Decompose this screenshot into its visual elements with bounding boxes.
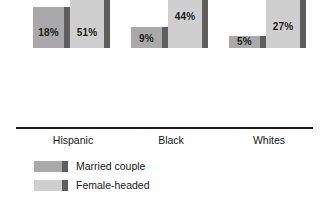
legend-swatch-icon	[34, 180, 68, 191]
category-label-whites: Whites	[229, 134, 309, 146]
category-label-hispanic: Hispanic	[33, 134, 113, 146]
legend-item-married-couple[interactable]: Married couple	[34, 160, 234, 177]
chart-legend: Married couple Female-headed	[34, 160, 234, 198]
legend-swatch-icon	[34, 161, 68, 172]
legend-label: Female-headed	[76, 179, 150, 192]
plot-area: 18% 51% 9% 44%	[0, 0, 329, 131]
bar-value-label: 5%	[229, 36, 260, 47]
bar-value-label: 27%	[266, 21, 300, 32]
legend-item-female-headed[interactable]: Female-headed	[34, 179, 234, 196]
bar-shadow	[202, 0, 208, 48]
x-axis-baseline	[16, 127, 313, 129]
swatch-shadow	[62, 161, 68, 172]
bar-shadow	[300, 0, 306, 48]
bar-shadow	[104, 0, 110, 48]
bar-value-label: 9%	[131, 33, 162, 44]
bar-value-label: 18%	[33, 27, 64, 38]
bar-value-label: 51%	[70, 27, 104, 38]
bar-value-label: 44%	[168, 11, 202, 22]
swatch-body	[34, 161, 62, 172]
bar-body	[168, 0, 202, 48]
bar-chart: 18% 51% 9% 44%	[0, 0, 329, 211]
swatch-body	[34, 180, 62, 191]
category-label-black: Black	[131, 134, 211, 146]
legend-label: Married couple	[76, 160, 145, 173]
bar-body	[70, 0, 104, 48]
swatch-shadow	[62, 180, 68, 191]
